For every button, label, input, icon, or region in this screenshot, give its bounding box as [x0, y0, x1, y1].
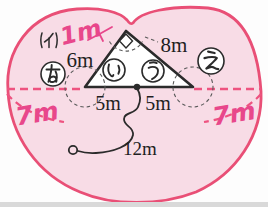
diagram-page: 6m 8m 5m 5m 12m 1m 7m 7m (イ) あ い う [0, 0, 268, 207]
geometry-diagram: 6m 8m 5m 5m 12m 1m 7m 7m (イ) あ い う [0, 0, 268, 207]
rope-end-ring [69, 146, 77, 154]
region-label-a: あ [41, 62, 65, 86]
left-side-label: 6m [67, 48, 94, 72]
region-label-e: え [198, 48, 224, 74]
right-side-label: 8m [161, 33, 188, 57]
rope-length-label: 12m [123, 138, 157, 159]
base-right-label: 5m [145, 92, 171, 114]
page-edge-strip [0, 202, 268, 207]
base-left-label: 5m [95, 92, 121, 114]
region-label-i: い [103, 59, 125, 81]
region-label-u: う [142, 60, 164, 82]
